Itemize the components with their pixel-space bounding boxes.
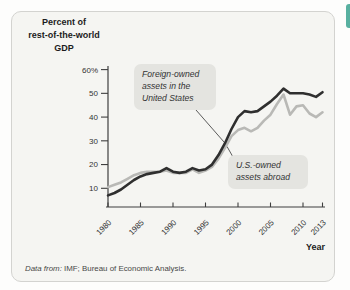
source-note-text: IMF; Bureau of Economic Analysis.: [62, 264, 187, 273]
annotation-us-owned-assets: U.S.-owned assets abroad: [228, 155, 308, 189]
svg-text:1990: 1990: [159, 218, 178, 237]
svg-text:2000: 2000: [224, 218, 243, 237]
svg-text:2010: 2010: [289, 218, 308, 237]
svg-text:1995: 1995: [192, 218, 211, 237]
x-axis-label: Year: [245, 242, 325, 252]
source-note-prefix: Data from:: [25, 264, 62, 273]
svg-text:20: 20: [89, 160, 98, 169]
svg-text:60%: 60%: [82, 66, 98, 75]
svg-text:1980: 1980: [94, 218, 113, 237]
svg-text:10: 10: [89, 184, 98, 193]
svg-text:30: 30: [89, 137, 98, 146]
svg-text:2005: 2005: [257, 218, 276, 237]
svg-text:2013: 2013: [309, 218, 328, 237]
y-axis-title: Percent of rest-of-the-world GDP: [20, 16, 108, 55]
svg-text:1985: 1985: [127, 218, 146, 237]
page-edge-tab: [346, 4, 350, 28]
svg-text:50: 50: [89, 89, 98, 98]
source-note: Data from: IMF; Bureau of Economic Analy…: [25, 264, 186, 273]
svg-text:40: 40: [89, 113, 98, 122]
annotation-foreign-owned-assets: Foreign-owned assets in the United State…: [134, 64, 216, 110]
